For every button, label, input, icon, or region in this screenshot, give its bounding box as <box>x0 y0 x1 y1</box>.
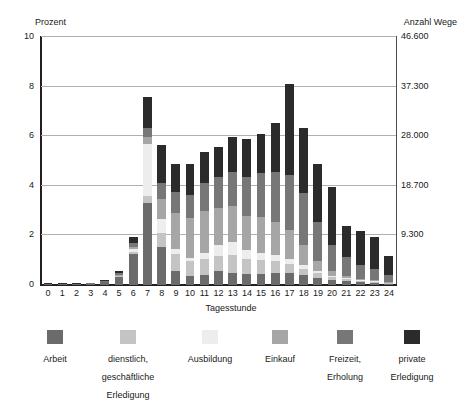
bar-segment <box>285 84 294 175</box>
bar-segment <box>242 139 251 177</box>
bar-segment <box>86 284 95 285</box>
legend-item[interactable]: private Erledigung <box>372 330 452 384</box>
bar-segment <box>143 203 152 285</box>
bar-segment <box>271 123 280 173</box>
bar-segment <box>313 261 322 271</box>
legend-label: Einkauf <box>265 354 295 364</box>
y-axis-title-left: Prozent <box>35 17 66 27</box>
bar-stack <box>299 128 308 285</box>
y-tick-label-right: 28.000 <box>401 130 447 140</box>
bar-segment <box>384 256 393 275</box>
bar-segment <box>285 230 294 259</box>
bar-segment <box>171 164 180 193</box>
bar-stack <box>242 139 251 285</box>
legend-label: Arbeit <box>43 354 67 364</box>
bar-segment <box>200 183 209 210</box>
y-axis-title-right: Anzahl Wege <box>404 17 457 27</box>
y-tick-label-left: 6 <box>8 130 34 140</box>
bar-stack <box>257 134 266 285</box>
bar-segment <box>157 219 166 233</box>
bar-segment <box>157 199 166 219</box>
bar-segment <box>186 276 195 285</box>
bar-stack <box>157 145 166 285</box>
bar-segment <box>242 250 251 259</box>
bar-segment <box>129 254 138 285</box>
bar-segment <box>328 280 337 285</box>
bar-segment <box>271 222 280 255</box>
bar-segment <box>384 284 393 285</box>
bar-segment <box>228 137 237 172</box>
bar-stack <box>313 164 322 285</box>
y-tick-label-right: 18.700 <box>401 180 447 190</box>
chart-legend: Arbeitdienstlich, geschäftliche Erledigu… <box>0 330 462 399</box>
legend-label: Freizeit, Erholung <box>327 354 363 382</box>
bar-segment <box>171 254 180 271</box>
bar-stack <box>271 123 280 285</box>
bar-stack <box>86 283 95 285</box>
legend-swatch-icon <box>272 330 288 344</box>
bar-segment <box>157 247 166 285</box>
bar-segment <box>186 195 195 219</box>
bar-segment <box>285 175 294 231</box>
gridline <box>41 86 396 87</box>
bar-segment <box>299 193 308 245</box>
bar-segment <box>115 277 124 285</box>
bar-segment <box>257 274 266 285</box>
bar-segment <box>228 206 237 242</box>
bar-stack <box>342 226 351 285</box>
bar-segment <box>200 275 209 285</box>
bar-segment <box>313 164 322 222</box>
bar-stack <box>58 283 67 285</box>
bar-segment <box>384 275 393 282</box>
legend-swatch-icon <box>47 330 63 344</box>
bar-segment <box>214 177 223 208</box>
bar-segment <box>186 218 195 258</box>
bar-segment <box>214 208 223 245</box>
bar-segment <box>328 245 337 271</box>
legend-item[interactable]: dienstlich, geschäftliche Erledigung <box>88 330 168 402</box>
bar-segment <box>271 261 280 272</box>
bar-segment <box>186 261 195 276</box>
gridline <box>41 135 396 136</box>
legend-item[interactable]: Ausbildung <box>170 330 250 366</box>
bar-segment <box>370 237 379 269</box>
bar-segment <box>143 97 152 128</box>
bar-segment <box>257 134 266 174</box>
bar-stack <box>72 283 81 285</box>
bar-segment <box>58 284 67 285</box>
bar-segment <box>44 284 53 285</box>
y-tick-label-right: 46.600 <box>401 31 447 41</box>
bar-segment <box>143 128 152 138</box>
legend-item[interactable]: Arbeit <box>15 330 95 366</box>
x-tick-label: 24 <box>381 288 397 298</box>
bar-segment <box>200 211 209 253</box>
bar-stack <box>129 237 138 285</box>
bar-segment <box>214 147 223 177</box>
legend-label: Ausbildung <box>188 354 233 364</box>
bar-segment <box>100 282 109 285</box>
bar-segment <box>370 269 379 280</box>
bar-segment <box>242 274 251 285</box>
bar-segment <box>299 275 308 285</box>
bar-segment <box>157 183 166 199</box>
bar-segment <box>143 144 152 196</box>
bar-segment <box>214 271 223 285</box>
bar-segment <box>157 233 166 247</box>
bar-stack <box>384 256 393 285</box>
bar-segment <box>200 259 209 275</box>
bar-segment <box>257 253 266 260</box>
legend-swatch-icon <box>202 330 218 344</box>
bar-segment <box>257 173 266 216</box>
bar-stack <box>115 271 124 285</box>
y-axis-right <box>396 36 397 286</box>
y-tick-label-right: 9.300 <box>401 229 447 239</box>
bar-segment <box>299 128 308 194</box>
legend-swatch-icon <box>404 330 420 344</box>
bar-segment <box>285 273 294 285</box>
bar-segment <box>242 259 251 274</box>
bar-stack <box>370 237 379 285</box>
legend-label: dienstlich, geschäftliche Erledigung <box>102 354 155 400</box>
bar-stack <box>143 97 152 285</box>
bar-segment <box>271 273 280 285</box>
